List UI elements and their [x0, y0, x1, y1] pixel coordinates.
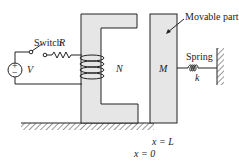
- turns-label: N: [115, 63, 124, 74]
- x-equals-L-label: x = L: [151, 136, 174, 147]
- x-equals-0-label: x = 0: [133, 148, 155, 159]
- electromagnet-core: [81, 14, 138, 123]
- ground: [21, 123, 154, 130]
- resistor-label: R: [58, 37, 65, 48]
- circuit: [8, 44, 82, 84]
- mass-label: M: [158, 63, 168, 74]
- spring-constant-label: k: [195, 72, 200, 83]
- diagram-canvas: Switch R + − V N M Movable part Spring k…: [0, 0, 239, 164]
- wall: [217, 48, 224, 85]
- movable-part-label: Movable part: [185, 11, 239, 22]
- source-minus-label: −: [12, 67, 18, 78]
- source-label: V: [27, 64, 35, 75]
- resistor-icon: [52, 52, 71, 58]
- spring-label: Spring: [186, 51, 213, 62]
- spring: [177, 65, 217, 71]
- switch-label: Switch: [34, 37, 62, 48]
